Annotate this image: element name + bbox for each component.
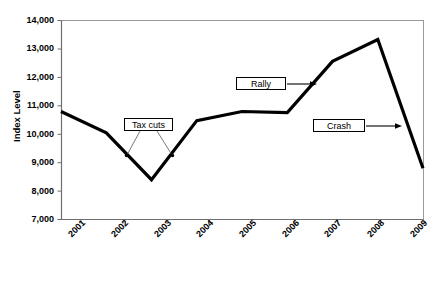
annotation-crash: Crash xyxy=(313,119,365,132)
y-tick-label-12000: 12,000 xyxy=(8,72,54,82)
y-tick-label-8000: 8,000 xyxy=(8,186,54,196)
y-tick-label-9000: 9,000 xyxy=(8,157,54,167)
y-tick-label-13000: 13,000 xyxy=(8,43,54,53)
y-tick-label-10000: 10,000 xyxy=(8,129,54,139)
plot-area-border xyxy=(62,21,424,220)
annotation-tax-cuts: Tax cuts xyxy=(124,118,173,131)
line-chart: Index Level 14,000 13,000 12,000 11,000 … xyxy=(0,0,446,282)
y-tick-label-11000: 11,000 xyxy=(8,100,54,110)
chart-canvas xyxy=(0,0,446,282)
y-tick-label-14000: 14,000 xyxy=(8,15,54,25)
y-tick-label-7000: 7,000 xyxy=(8,214,54,224)
annotation-rally: Rally xyxy=(236,77,286,90)
